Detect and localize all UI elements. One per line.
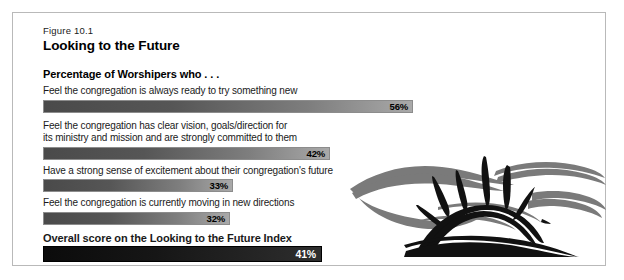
bar-fill: 33% <box>43 179 233 192</box>
bar-group-overall: Overall score on the Looking to the Futu… <box>43 232 443 263</box>
bar-value: 32% <box>207 213 229 224</box>
bar-chart: Feel the congregation is always ready to… <box>43 85 443 262</box>
bar-label: Have a strong sense of excitement about … <box>43 165 443 178</box>
bar-label: Feel the congregation has clear vision, … <box>43 120 443 133</box>
spacer <box>43 113 443 120</box>
bar-track: 32% <box>43 212 443 225</box>
figure-frame: Figure 10.1 Looking to the Future Percen… <box>12 12 606 266</box>
bar-label: Feel the congregation is always ready to… <box>43 85 443 98</box>
bar-fill-overall: 41% <box>43 246 322 262</box>
spacer <box>43 225 443 232</box>
bar-track: 41% <box>43 246 443 262</box>
bar-track: 42% <box>43 147 443 160</box>
bar-fill: 42% <box>43 147 330 160</box>
bar-fill: 56% <box>43 100 413 113</box>
bar-value: 42% <box>307 148 329 159</box>
bar-group: Have a strong sense of excitement about … <box>43 165 443 193</box>
bar-label-line2: its ministry and mission and are strongl… <box>43 132 443 145</box>
bar-group: Feel the congregation is always ready to… <box>43 85 443 113</box>
bar-track: 56% <box>43 100 443 113</box>
section-heading: Percentage of Worshipers who . . . <box>43 67 583 81</box>
figure-title: Looking to the Future <box>43 38 583 54</box>
bar-group: Feel the congregation is currently movin… <box>43 197 443 225</box>
bar-track: 33% <box>43 179 443 192</box>
bar-label-overall: Overall score on the Looking to the Futu… <box>43 232 443 245</box>
bar-value: 56% <box>390 101 412 112</box>
figure-number: Figure 10.1 <box>43 25 583 37</box>
bar-label: Feel the congregation is currently movin… <box>43 197 443 210</box>
bar-value-overall: 41% <box>296 248 321 260</box>
bar-value: 33% <box>210 180 232 191</box>
bar-group: Feel the congregation has clear vision, … <box>43 120 443 160</box>
bar-fill: 32% <box>43 212 230 225</box>
